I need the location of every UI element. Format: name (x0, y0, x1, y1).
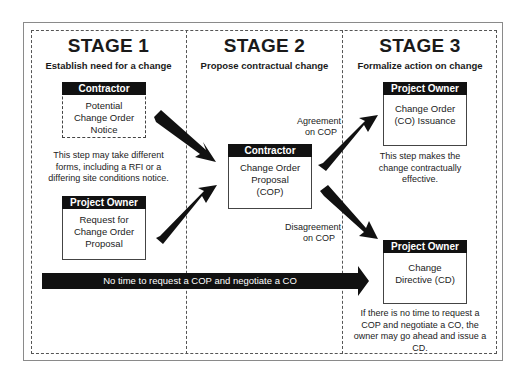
arrow-disagreement-to-cd-icon (320, 185, 378, 239)
arrow-notice-to-cop-icon (154, 110, 216, 162)
arrow-request-to-cop-icon (156, 185, 217, 244)
bypass-arrow-label: No time to request a COP and negotiate a… (42, 273, 358, 289)
flow-arrows (0, 0, 527, 380)
arrow-agreement-to-co-icon (318, 115, 378, 171)
